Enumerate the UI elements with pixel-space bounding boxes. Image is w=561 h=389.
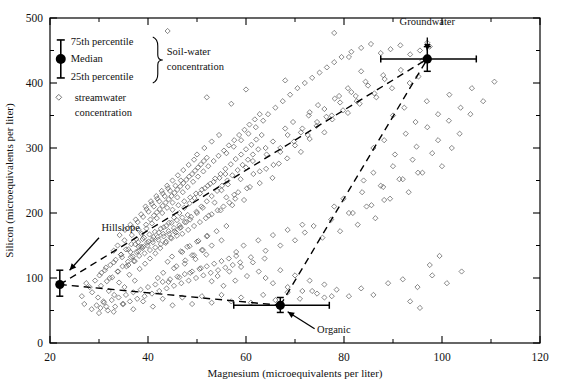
- legend-streamwater-2: concentration: [75, 107, 133, 118]
- legend-streamwater-1: streamwater: [75, 92, 127, 103]
- y-axis-label: Silicon (microequivalents per liter): [3, 103, 16, 258]
- y-tick-label: 200: [26, 207, 44, 219]
- x-tick-label: 80: [338, 351, 350, 363]
- scatter-plot-svg: 204060801001200100200300400500 Groundwat…: [0, 0, 561, 389]
- x-tick-label: 40: [142, 351, 154, 363]
- x-axis-label: Magnesium (microequivalents per liter): [207, 367, 382, 380]
- legend-median-marker: [56, 54, 66, 64]
- annotation-organic: Organic: [317, 324, 351, 335]
- endmember-marker: [276, 301, 285, 310]
- x-tick-label: 20: [44, 351, 56, 363]
- y-tick-label: 100: [26, 272, 44, 284]
- figure-scatter-plot: 204060801001200100200300400500 Groundwat…: [0, 0, 561, 389]
- x-tick-label: 120: [531, 351, 549, 363]
- legend-soil-water-1: Soil-water: [167, 46, 211, 57]
- legend-label-median: Median: [71, 53, 104, 64]
- legend-label-25th: 25th percentile: [71, 71, 134, 82]
- y-tick-label: 300: [26, 142, 44, 154]
- x-tick-label: 100: [433, 351, 451, 363]
- y-tick-label: 0: [37, 337, 43, 349]
- annotation-hillslope: Hillslope: [101, 222, 140, 233]
- endmember-marker: [55, 280, 64, 289]
- y-tick-label: 500: [26, 12, 44, 24]
- endmember-marker: [423, 54, 432, 63]
- legend-label-75th: 75th percentile: [71, 36, 134, 47]
- legend-soil-water-2: concentration: [167, 61, 225, 72]
- annotation-groundwater: Groundwater: [400, 16, 456, 27]
- x-tick-label: 60: [240, 351, 252, 363]
- y-tick-label: 400: [26, 77, 44, 89]
